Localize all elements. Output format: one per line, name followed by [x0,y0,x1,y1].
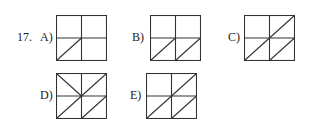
option-a-figure[interactable] [56,15,107,61]
option-a-label[interactable]: A) [40,30,53,45]
option-e-label[interactable]: E) [130,88,141,103]
option-b-label[interactable]: B) [132,30,144,45]
option-d-figure[interactable] [56,73,107,119]
option-d-label[interactable]: D) [40,88,53,103]
option-c-label[interactable]: C) [228,30,240,45]
option-c-figure[interactable] [244,15,295,61]
option-b-figure[interactable] [150,15,201,61]
option-e-figure[interactable] [146,73,197,119]
question-number: 17. [17,30,32,45]
